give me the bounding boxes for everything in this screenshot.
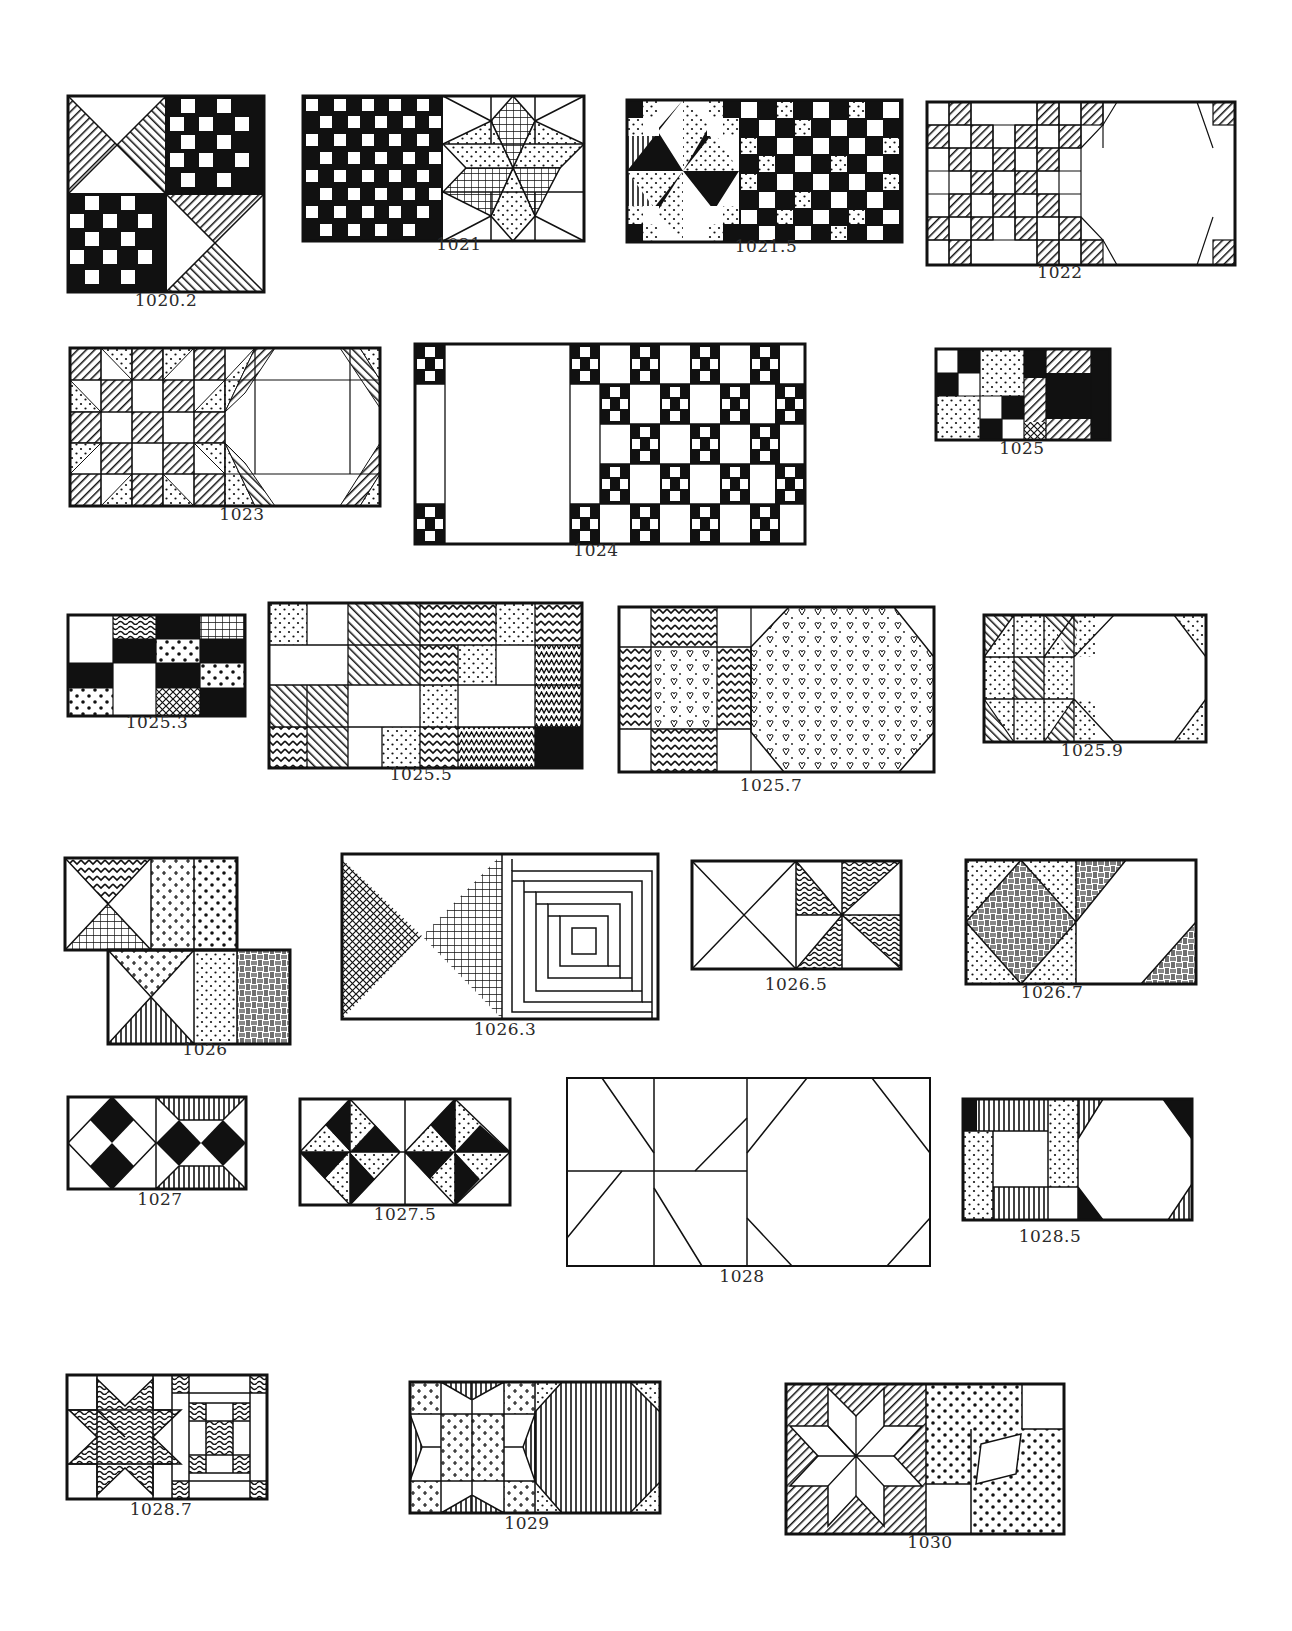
block-label: 1020.2: [135, 290, 197, 310]
block-label: 1027.5: [374, 1204, 436, 1224]
checker-lemoyne-star-illustration: [303, 96, 584, 241]
block-label: 1021.5: [735, 236, 797, 256]
block-label: 1028: [719, 1266, 764, 1286]
block-label: 1023: [219, 504, 264, 524]
block-label: 1028.5: [1019, 1226, 1081, 1246]
block-label: 1022: [1037, 262, 1082, 282]
bowtie-log-cabin-illustration: [342, 854, 658, 1019]
quilt-block-1025: [936, 349, 1110, 440]
quilt-block-1022: [927, 102, 1235, 265]
block-label: 1025.7: [740, 775, 802, 795]
block-label: 1026.5: [765, 974, 827, 994]
block-label: 1025: [999, 438, 1044, 458]
block-label: 1026: [182, 1039, 227, 1059]
block-label: 1025.9: [1061, 740, 1123, 760]
quilt-block-1026-3: [342, 854, 658, 1019]
quilt-block-1028-5: [963, 1099, 1192, 1220]
quilt-block-1030: [786, 1384, 1064, 1534]
quilt-block-1028-7: [67, 1375, 267, 1499]
quilt-block-1024: [415, 344, 805, 544]
shoo-fly-snowball-illustration: [70, 348, 380, 506]
strip-patchwork-illustration: [269, 603, 582, 768]
quilt-block-1025-5: [269, 603, 582, 768]
quilt-block-1026-7: [966, 860, 1196, 984]
block-label: 1024: [573, 540, 618, 560]
block-label: 1025.3: [126, 712, 188, 732]
x-pinwheel-illustration: [692, 861, 901, 969]
block-label: 1028.7: [130, 1499, 192, 1519]
hourglass-offset-illustration: [65, 858, 290, 1044]
shoo-fly-octagon-illustration: [984, 615, 1206, 742]
square-in-square-illustration: [966, 860, 1196, 984]
lemoyne-star-patch-illustration: [786, 1384, 1064, 1534]
block-label: 1021: [436, 234, 481, 254]
hourglass-checker-illustration: [68, 96, 264, 292]
irish-chain-snowball-illustration: [927, 102, 1235, 265]
frame-octagon-illustration: [963, 1099, 1192, 1220]
quilt-block-1026: [65, 858, 290, 1044]
patchwork-illustration: [936, 349, 1110, 440]
diamonds-illustration: [68, 1097, 246, 1189]
quilt-block-1027: [68, 1097, 246, 1189]
block-label: 1026.3: [474, 1019, 536, 1039]
quilt-block-1020-2: [68, 96, 264, 292]
four-patch-prints-illustration: [68, 615, 245, 716]
star-nine-patch-illustration: [67, 1375, 267, 1499]
quilt-block-1023: [70, 348, 380, 506]
block-label: 1030: [907, 1532, 952, 1552]
quilt-block-1021: [303, 96, 584, 241]
sashing-nine-patch-illustration: [415, 344, 805, 544]
quilt-block-1021-5: [627, 100, 902, 242]
block-label: 1025.5: [390, 764, 452, 784]
block-label: 1029: [504, 1513, 549, 1533]
block-label: 1026.7: [1021, 982, 1083, 1002]
quilt-block-1025-7: [619, 607, 934, 772]
block-label: 1027: [137, 1189, 182, 1209]
quilt-block-1029: [410, 1382, 660, 1513]
quilt-block-1026-5: [692, 861, 901, 969]
star-checker-illustration: [627, 100, 902, 242]
quilt-block-1025-9: [984, 615, 1206, 742]
quilt-block-1025-3: [68, 615, 245, 716]
sawtooth-snowball-illustration: [410, 1382, 660, 1513]
quilt-block-1028: [567, 1078, 930, 1266]
pinwheel-triangles-illustration: [300, 1099, 510, 1205]
quilt-block-1027-5: [300, 1099, 510, 1205]
nine-patch-octagon-illustration: [619, 607, 934, 772]
outline-snowball-illustration: [567, 1078, 930, 1266]
